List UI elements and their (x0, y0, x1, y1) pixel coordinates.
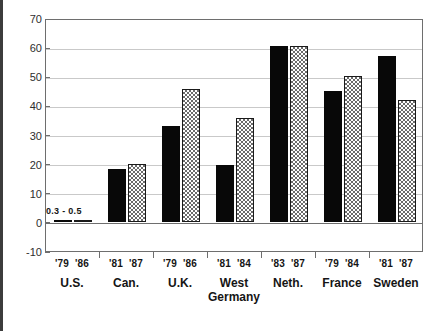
y-axis-tick-mark (45, 48, 50, 49)
bar-sweden-87 (398, 100, 416, 222)
x-axis-year-label: '84 (237, 258, 251, 269)
gridline (46, 107, 422, 108)
bar-west-germany-81 (216, 165, 234, 222)
bar-can-87 (128, 164, 146, 222)
bar-west-germany-84 (236, 118, 254, 221)
x-axis-year-label: '81 (109, 258, 123, 269)
x-axis-year-label: '79 (325, 258, 339, 269)
x-axis-year-label: '83 (271, 258, 285, 269)
x-axis-year-label: '81 (217, 258, 231, 269)
x-axis-group-separator (369, 252, 370, 258)
y-axis-tick-label: 20 (2, 159, 42, 171)
x-axis-group-label: WestGermany (208, 276, 260, 304)
bar-neth-87 (290, 46, 308, 222)
x-axis-group-separator (153, 252, 154, 258)
y-axis: 706050403020100-10 (0, 0, 42, 331)
plot-area (45, 19, 423, 252)
x-axis-year-label: '86 (75, 258, 89, 269)
x-axis-group-label: Neth. (273, 276, 303, 290)
y-axis-tick-mark (45, 222, 50, 223)
x-axis-year-label: '87 (129, 258, 143, 269)
x-axis-group-separator (207, 252, 208, 258)
y-axis-tick-mark (45, 19, 50, 20)
bar-neth-83 (270, 46, 288, 222)
bar-u-s-79 (54, 220, 72, 222)
gridline (46, 194, 422, 195)
y-axis-tick-mark (45, 252, 50, 253)
x-axis-year-label: '79 (55, 258, 69, 269)
y-axis-tick-label: 50 (2, 71, 42, 83)
y-axis-tick-label: 40 (2, 100, 42, 112)
x-axis-group-label: France (322, 276, 361, 290)
gridline (46, 78, 422, 79)
x-axis-group-separator (261, 252, 262, 258)
bar-value-annotation: 0.3 - 0.5 (46, 206, 82, 216)
y-axis-tick-mark (45, 135, 50, 136)
x-axis-year-label: '84 (345, 258, 359, 269)
bar-u-s-86 (74, 220, 92, 222)
y-axis-tick-label: 10 (2, 188, 42, 200)
gridline (46, 136, 422, 137)
y-axis-tick-label: 30 (2, 130, 42, 142)
x-axis-year-label: '87 (399, 258, 413, 269)
y-axis-tick-label: -10 (2, 246, 42, 258)
x-axis-group-separator (99, 252, 100, 258)
bar-can-81 (108, 169, 126, 221)
bar-france-84 (344, 76, 362, 222)
x-axis-group-label: Can. (113, 276, 139, 290)
y-axis-tick-mark (45, 164, 50, 165)
x-axis-group-label: U.K. (168, 276, 192, 290)
y-axis-tick-mark (45, 106, 50, 107)
y-axis-tick-label: 70 (2, 13, 42, 25)
bar-france-79 (324, 91, 342, 222)
x-axis-year-label: '79 (163, 258, 177, 269)
y-axis-tick-mark (45, 193, 50, 194)
x-axis-year-label: '87 (291, 258, 305, 269)
clipped-title-fragment (236, 0, 426, 3)
gridline (46, 165, 422, 166)
x-axis-group-separator (315, 252, 316, 258)
gridline (46, 49, 422, 50)
x-axis-group-label: Sweden (373, 276, 418, 290)
bar-u-k-86 (182, 89, 200, 222)
chart-figure: 706050403020100-10 '79'86U.S.'81'87Can.'… (0, 0, 435, 331)
bar-sweden-81 (378, 56, 396, 222)
x-axis-year-label: '81 (379, 258, 393, 269)
x-axis-year-label: '86 (183, 258, 197, 269)
bar-u-k-79 (162, 126, 180, 222)
y-axis-tick-label: 0 (2, 217, 42, 229)
x-axis-group-label: U.S. (60, 276, 83, 290)
y-axis-tick-mark (45, 77, 50, 78)
y-axis-tick-label: 60 (2, 42, 42, 54)
zero-baseline (46, 223, 422, 224)
